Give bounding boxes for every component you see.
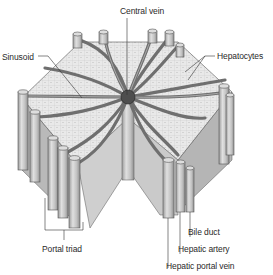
label-bile-duct: Bile duct bbox=[188, 227, 220, 237]
central-vein bbox=[121, 90, 135, 104]
label-hepatic-portal-vein: Hepatic portal vein bbox=[166, 261, 235, 271]
label-sinusoid: Sinusoid bbox=[2, 52, 34, 62]
label-hepatic-artery: Hepatic artery bbox=[178, 244, 230, 254]
label-hepatocytes: Hepatocytes bbox=[217, 51, 263, 61]
label-portal-triad: Portal triad bbox=[42, 244, 82, 254]
liver-lobule-diagram bbox=[0, 0, 273, 275]
label-central-vein: Central vein bbox=[120, 6, 164, 16]
